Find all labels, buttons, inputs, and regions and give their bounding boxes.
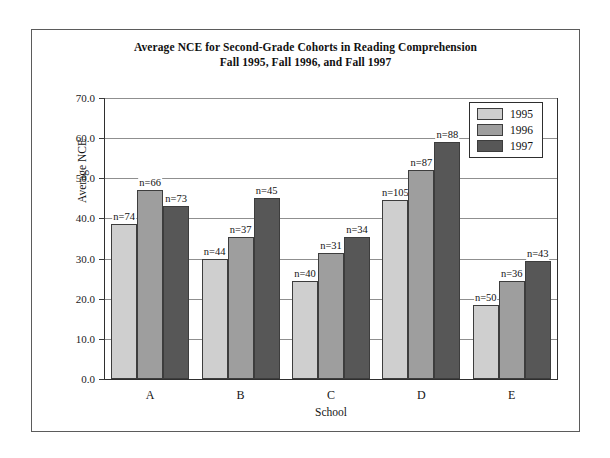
bar-E-1997[interactable]: n=43 [525, 261, 551, 379]
legend-swatch-icon [477, 108, 503, 120]
bar-value-label: n=88 [436, 129, 460, 141]
bar-value-label: n=66 [138, 177, 162, 189]
bar-group: n=44n=37n=45B [195, 98, 285, 379]
y-axis-title-label: Average NCE [76, 139, 88, 203]
bar-slot: n=105 [382, 98, 408, 379]
bar-slot: n=66 [137, 98, 163, 379]
bar-A-1996[interactable]: n=66 [137, 190, 163, 379]
chart-title-line-2: Fall 1995, Fall 1996, and Fall 1997 [32, 55, 579, 70]
bar-B-1997[interactable]: n=45 [254, 198, 280, 379]
chart-title: Average NCE for Second-Grade Cohorts in … [32, 40, 579, 70]
bar-C-1997[interactable]: n=34 [344, 237, 370, 380]
bar-slot: n=87 [408, 98, 434, 379]
bar-slot: n=40 [292, 98, 318, 379]
bar-slot: n=45 [254, 98, 280, 379]
bar-value-label: n=43 [526, 248, 550, 260]
legend-item-1995[interactable]: 1995 [477, 108, 533, 120]
bar-value-label: n=105 [381, 187, 410, 199]
bar-slot: n=74 [111, 98, 137, 379]
bar-group: n=105n=87n=88D [376, 98, 466, 379]
bar-slot: n=37 [228, 98, 254, 379]
bar-A-1995[interactable]: n=74 [111, 224, 137, 379]
y-axis-tick-label: 10.0 [76, 333, 95, 345]
legend-swatch-icon [477, 140, 503, 152]
bar-B-1996[interactable]: n=37 [228, 237, 254, 380]
bar-group-bars: n=44n=37n=45 [195, 98, 285, 379]
bar-A-1997[interactable]: n=73 [163, 206, 189, 379]
bar-E-1996[interactable]: n=36 [499, 281, 525, 379]
legend-label: 1997 [510, 140, 533, 152]
bar-value-label: n=73 [164, 193, 188, 205]
bar-group: n=40n=31n=34C [286, 98, 376, 379]
y-axis-tick-label: 60.0 [76, 132, 95, 144]
bar-group-bars: n=74n=66n=73 [105, 98, 195, 379]
bar-slot: n=34 [344, 98, 370, 379]
bar-value-label: n=87 [410, 157, 434, 169]
x-axis-category-label: E [467, 388, 557, 403]
legend-item-1997[interactable]: 1997 [477, 140, 533, 152]
y-axis-tick-label: 40.0 [76, 212, 95, 224]
chart-legend: 199519961997 [469, 102, 543, 158]
bar-value-label: n=37 [229, 224, 253, 236]
bar-group-bars: n=40n=31n=34 [286, 98, 376, 379]
legend-swatch-icon [477, 124, 503, 136]
bar-group: n=74n=66n=73A [105, 98, 195, 379]
bar-E-1995[interactable]: n=50 [473, 305, 499, 379]
y-axis-tick [99, 379, 105, 380]
bar-D-1995[interactable]: n=105 [382, 200, 408, 379]
bar-value-label: n=31 [319, 240, 343, 252]
bar-value-label: n=36 [500, 268, 524, 280]
bar-slot: n=73 [163, 98, 189, 379]
legend-label: 1996 [510, 124, 533, 136]
x-axis-title-label: School [315, 406, 347, 418]
bar-value-label: n=45 [255, 185, 279, 197]
legend-item-1996[interactable]: 1996 [477, 124, 533, 136]
bar-slot: n=31 [318, 98, 344, 379]
bar-value-label: n=40 [293, 268, 317, 280]
y-axis-tick-label: 50.0 [76, 172, 95, 184]
bar-group-bars: n=105n=87n=88 [376, 98, 466, 379]
figure-frame: Average NCE for Second-Grade Cohorts in … [31, 29, 580, 432]
bar-C-1996[interactable]: n=31 [318, 253, 344, 379]
x-axis-category-label: C [286, 388, 376, 403]
bar-C-1995[interactable]: n=40 [292, 281, 318, 379]
bar-slot: n=44 [202, 98, 228, 379]
y-axis-tick-label: 30.0 [76, 253, 95, 265]
bar-value-label: n=34 [345, 224, 369, 236]
legend-label: 1995 [510, 108, 533, 120]
bar-D-1997[interactable]: n=88 [434, 142, 460, 379]
x-axis-title: School [105, 406, 557, 418]
bar-B-1995[interactable]: n=44 [202, 259, 228, 379]
bar-slot: n=88 [434, 98, 460, 379]
bar-value-label: n=74 [112, 211, 136, 223]
x-axis-category-label: B [195, 388, 285, 403]
x-axis-category-label: A [105, 388, 195, 403]
y-axis-tick-label: 20.0 [76, 293, 95, 305]
y-axis-tick-label: 70.0 [76, 92, 95, 104]
bar-value-label: n=50 [474, 292, 498, 304]
x-axis-category-label: D [376, 388, 466, 403]
bar-value-label: n=44 [203, 246, 227, 258]
y-axis-tick-label: 0.0 [81, 373, 95, 385]
chart-title-line-1: Average NCE for Second-Grade Cohorts in … [32, 40, 579, 55]
bar-D-1996[interactable]: n=87 [408, 170, 434, 379]
